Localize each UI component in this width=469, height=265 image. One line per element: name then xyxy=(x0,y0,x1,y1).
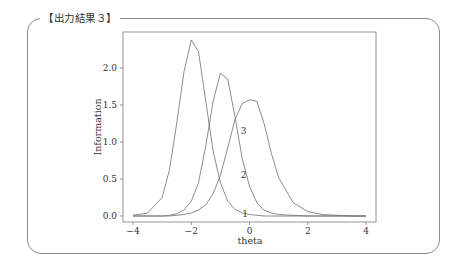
information-curve-3 xyxy=(133,100,366,216)
x-tick-label: −2 xyxy=(185,226,198,236)
curve-label-2: 2 xyxy=(241,170,247,180)
x-tick-label: −4 xyxy=(126,226,140,236)
y-tick-label: 1.0 xyxy=(103,137,118,147)
x-tick-label: 2 xyxy=(305,226,311,236)
information-chart: 0.00.51.01.52.0 −4−2024 123 theta Inform… xyxy=(0,0,469,265)
x-axis: −4−2024 xyxy=(126,222,369,236)
y-tick-label: 1.5 xyxy=(103,100,118,110)
y-tick-label: 0.5 xyxy=(103,174,118,184)
curve-label-1: 1 xyxy=(242,209,248,219)
curve-labels: 123 xyxy=(241,126,248,219)
information-curve-2 xyxy=(133,73,366,216)
y-axis: 0.00.51.01.52.0 xyxy=(103,63,123,221)
plot-area xyxy=(123,32,376,222)
y-axis-label: Information xyxy=(92,98,103,155)
y-tick-label: 0.0 xyxy=(103,211,118,221)
curves xyxy=(133,40,366,216)
x-tick-label: 4 xyxy=(363,226,369,236)
x-axis-label: theta xyxy=(237,235,262,246)
y-tick-label: 2.0 xyxy=(103,63,118,73)
information-curve-1 xyxy=(133,40,366,216)
curve-label-3: 3 xyxy=(241,126,247,136)
